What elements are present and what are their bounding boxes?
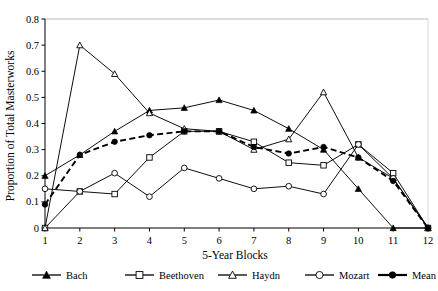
y-tick-label: 0.2	[26, 170, 39, 181]
legend-item-beethoven[interactable]: Beethoven	[125, 270, 205, 281]
x-tick-label: 12	[423, 235, 434, 246]
legend-item-bach[interactable]: Bach	[32, 270, 88, 281]
data-point-marker-open-square	[112, 191, 117, 196]
y-tick-label: 0.5	[26, 92, 39, 103]
data-point-marker-filled-circle	[356, 155, 362, 161]
legend-item-mean[interactable]: Mean	[378, 270, 437, 281]
x-axis-title: 5-Year Blocks	[202, 249, 268, 261]
x-tick-label: 11	[388, 235, 398, 246]
data-point-marker-open-circle	[181, 165, 187, 171]
data-point-marker-filled-circle	[77, 152, 83, 158]
y-tick-label: 0	[34, 223, 39, 234]
data-point-marker-filled-triangle	[112, 128, 118, 134]
data-point-marker-open-circle	[216, 176, 222, 182]
chart-legend: BachBeethovenHaydnMozartMean	[32, 270, 437, 281]
data-point-marker-filled-circle	[112, 139, 118, 145]
legend-item-mozart[interactable]: Mozart	[305, 270, 369, 281]
data-point-marker-filled-circle	[321, 144, 327, 150]
legend-item-haydn[interactable]: Haydn	[218, 270, 281, 281]
data-point-marker-filled-circle	[425, 225, 431, 231]
data-point-marker-filled-triangle	[216, 97, 222, 103]
data-point-marker-filled-circle	[182, 129, 188, 135]
chart-figure: 00.10.20.30.40.50.60.70.8 12345678910111…	[0, 0, 438, 291]
legend-label-mean: Mean	[412, 270, 437, 281]
data-point-marker-open-square	[136, 272, 143, 279]
legend-label-mozart: Mozart	[339, 270, 369, 281]
series-mean	[42, 129, 431, 231]
data-point-marker-open-circle	[42, 186, 48, 192]
series-line-mozart	[45, 144, 428, 228]
data-point-marker-filled-circle	[216, 129, 222, 135]
data-point-marker-filled-circle	[286, 151, 292, 157]
y-tick-label: 0.7	[26, 40, 39, 51]
series-mozart	[42, 142, 431, 231]
data-point-marker-open-circle	[112, 170, 118, 176]
legend-label-beethoven: Beethoven	[159, 270, 205, 281]
x-tick-label: 6	[216, 235, 221, 246]
y-tick-label: 0.8	[26, 14, 39, 25]
x-tick-label: 7	[251, 235, 256, 246]
y-axis-tick-labels: 00.10.20.30.40.50.60.70.8	[26, 14, 40, 234]
y-tick-label: 0.1	[26, 196, 39, 207]
x-tick-label: 9	[321, 235, 326, 246]
data-point-marker-filled-circle	[147, 132, 153, 138]
y-tick-label: 0.4	[26, 118, 40, 129]
legend-label-bach: Bach	[66, 270, 88, 281]
x-tick-label: 1	[42, 235, 47, 246]
y-tick-label: 0.6	[26, 66, 39, 77]
x-tick-label: 3	[112, 235, 117, 246]
data-point-marker-filled-circle	[251, 144, 257, 150]
x-tick-label: 8	[286, 235, 291, 246]
chart-canvas: 00.10.20.30.40.50.60.70.8 12345678910111…	[0, 0, 438, 291]
x-tick-label: 2	[77, 235, 82, 246]
data-point-marker-open-square	[286, 160, 291, 165]
data-point-marker-open-square	[251, 139, 256, 144]
axis-lines	[42, 19, 429, 232]
data-point-marker-filled-circle	[390, 178, 396, 184]
data-series-group	[42, 42, 431, 231]
data-point-marker-open-square	[321, 163, 326, 168]
data-point-marker-open-triangle	[77, 42, 83, 48]
data-point-marker-open-circle	[251, 186, 257, 192]
legend-label-haydn: Haydn	[252, 270, 281, 281]
x-tick-label: 10	[353, 235, 364, 246]
y-tick-label: 0.3	[26, 144, 39, 155]
data-point-marker-open-circle	[77, 189, 83, 195]
data-point-marker-open-circle	[316, 271, 323, 278]
x-tick-label: 5	[182, 235, 187, 246]
data-point-marker-filled-circle	[389, 272, 396, 279]
data-point-marker-open-triangle	[320, 89, 326, 95]
data-point-marker-filled-circle	[42, 202, 48, 208]
x-axis-tick-labels: 123456789101112	[42, 235, 433, 246]
x-tick-label: 4	[147, 235, 153, 246]
data-point-marker-open-circle	[356, 142, 362, 148]
series-line-bach	[45, 100, 428, 228]
series-bach	[42, 97, 431, 231]
y-axis-title: Proportion of Total Masterworks	[4, 50, 17, 201]
data-point-marker-open-circle	[147, 194, 153, 200]
data-point-marker-open-square	[147, 155, 152, 160]
data-point-marker-open-circle	[286, 183, 292, 189]
series-beethoven	[42, 129, 430, 231]
data-point-marker-open-circle	[321, 191, 327, 197]
data-point-marker-filled-triangle	[286, 126, 292, 132]
